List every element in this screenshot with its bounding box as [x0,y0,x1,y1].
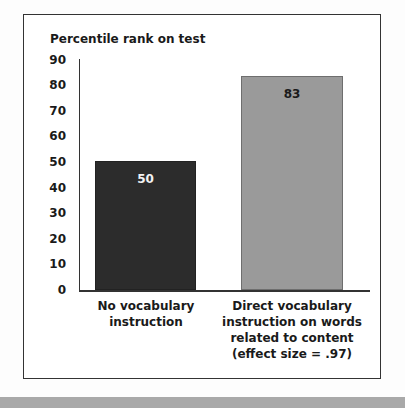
category-label-line: instruction [80,314,212,330]
y-axis-title: Percentile rank on test [50,32,205,46]
y-tick-40: 40 [30,181,66,195]
y-tick-20: 20 [30,232,66,246]
category-label-line: instruction on words [222,314,362,330]
category-label-direct-vocabulary: Direct vocabulary instruction on words r… [222,298,362,362]
x-axis-baseline [79,290,370,292]
y-tick-50: 50 [30,155,66,169]
category-label-line: Direct vocabulary [222,298,362,314]
y-axis-line [79,59,80,290]
y-tick-10: 10 [30,257,66,271]
y-tick-60: 60 [30,129,66,143]
category-label-line: related to content [222,330,362,346]
bar-direct-vocabulary-instruction: 83 [241,76,343,290]
y-tick-70: 70 [30,104,66,118]
category-label-line: (effect size = .97) [222,346,362,362]
category-label-line: No vocabulary [80,298,212,314]
bar-no-vocabulary-instruction: 50 [95,161,196,290]
bar-value-label: 83 [242,87,342,101]
bottom-gray-band [0,397,405,408]
category-label-no-vocabulary: No vocabulary instruction [80,298,212,330]
y-tick-80: 80 [30,78,66,92]
y-tick-90: 90 [30,53,66,67]
y-tick-0: 0 [30,283,66,297]
bar-value-label: 50 [96,172,195,186]
y-tick-30: 30 [30,206,66,220]
